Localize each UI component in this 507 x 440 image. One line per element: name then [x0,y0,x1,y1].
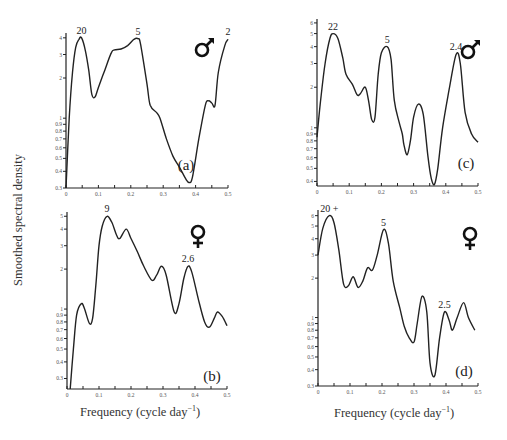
y-axis-label-text: Smoothed spectral density [11,154,26,286]
y-tick-label: 0.3 [307,383,314,389]
y-tick-label: 0.5 [306,165,313,171]
y-tick-label: 0.9 [307,321,314,327]
y-tick-label: 5 [311,223,314,229]
x-tick-label: 0.5 [224,392,231,398]
x-tick-label: 0.1 [95,191,102,197]
peak-period-label: 2.4 [450,41,463,52]
panel-b: 00.10.20.30.40.50.30.40.50.60.70.80.9123… [56,203,231,398]
y-tick-label: 0.4 [306,178,313,184]
y-tick-label: 0.8 [55,128,62,134]
peak-period-label: 22 [328,21,338,32]
panel-d: 00.10.20.30.40.50.30.40.50.60.70.80.9123… [307,203,482,395]
y-tick-label: 0.3 [55,185,62,191]
y-tick-label: 3 [310,60,313,66]
y-tick-label: 1 [60,306,63,312]
peak-period-label: 5 [385,34,390,45]
x-tick-label: 0.3 [160,191,167,197]
panel-c: 00.10.20.30.40.50.40.50.60.70.80.9123456… [306,19,482,195]
panel-label: (d) [455,363,473,380]
spectral-curve [70,216,227,389]
y-tick-label: 0.7 [55,136,62,142]
male-symbol-icon [462,40,480,58]
spectral-curve [318,215,475,376]
panel-a: 00.10.20.30.40.50.30.40.50.60.70.80.9123… [55,25,232,197]
y-tick-label: 0.3 [56,375,63,381]
x-tick-label: 0.3 [410,189,417,195]
y-tick-label: 0.8 [56,319,63,325]
x-tick-label: 0 [66,392,69,398]
x-tick-label: 0.4 [192,191,199,197]
peak-period-label: 5 [381,217,386,228]
peak-period-label: 2 [226,26,231,37]
y-tick-label: 0.7 [56,327,63,333]
peak-period-label: 2.5 [438,299,451,310]
y-tick-label: 0.4 [307,367,314,373]
female-symbol-icon [464,228,476,250]
y-tick-label: 3 [311,252,314,258]
peak-period-label: 20 [77,25,87,36]
y-tick-label: 0.9 [56,312,63,318]
y-tick-label: 0.8 [306,138,313,144]
peak-period-label: 2.6 [182,253,195,264]
x-tick-label: 0.1 [346,189,353,195]
y-tick-label: 4 [311,236,314,242]
y-tick-label: 4 [310,44,313,50]
y-tick-label: 3 [59,52,62,58]
y-tick-label: 6 [310,20,313,26]
y-tick-label: 5 [310,31,313,37]
y-tick-label: 0.5 [56,346,63,352]
y-tick-label: 5 [60,213,63,219]
female-symbol-icon [192,226,204,248]
y-tick-label: 6 [311,213,314,219]
peak-period-label: 20 + [320,203,339,214]
spectral-density-figure: 00.10.20.30.40.50.30.40.50.60.70.80.9123… [0,0,507,440]
y-tick-label: 1 [59,115,62,121]
y-tick-label: 0.6 [306,155,313,161]
y-tick-label: 2 [59,75,62,81]
spectral-curve [317,34,478,185]
y-tick-label: 1 [311,315,314,321]
x-tick-label: 0 [316,189,319,195]
y-tick-label: 0.6 [55,145,62,151]
y-tick-label: 0.7 [307,335,314,341]
x-tick-label: 0.2 [379,389,386,395]
y-tick-label: 0.6 [56,336,63,342]
y-tick-label: 0.5 [55,155,62,161]
y-tick-label: 2 [60,266,63,272]
y-tick-label: 2 [310,84,313,90]
y-axis-label: Smoothed spectral density [8,150,28,290]
y-tick-label: 0.4 [56,359,63,365]
y-tick-label: 0.5 [307,354,314,360]
y-tick-label: 1 [310,125,313,131]
panel-label: (b) [203,368,221,385]
male-symbol-icon [196,38,214,56]
y-tick-label: 2 [311,275,314,281]
x-tick-label: 0.2 [127,191,134,197]
peak-period-label: 9 [105,203,110,214]
y-tick-label: 4 [60,226,63,232]
y-tick-label: 3 [60,243,63,249]
x-tick-label: 0.2 [128,392,135,398]
x-tick-label: 0.3 [411,389,418,395]
panel-label: (c) [458,155,475,172]
peak-period-label: 5 [135,26,140,37]
x-axis-label-right: Frequency (cycle day−1) [334,405,454,421]
x-tick-label: 0.5 [475,389,482,395]
x-tick-label: 0.1 [347,389,354,395]
x-tick-label: 0.4 [443,389,450,395]
x-tick-label: 0.1 [96,392,103,398]
x-tick-label: 0.2 [378,189,385,195]
x-axis-label-left: Frequency (cycle day−1) [80,404,200,420]
y-tick-label: 4 [59,35,62,41]
plots-canvas: 00.10.20.30.40.50.30.40.50.60.70.80.9123… [0,0,507,440]
x-tick-label: 0.5 [225,191,232,197]
spectral-curve [66,37,228,188]
x-tick-label: 0.3 [160,392,167,398]
y-tick-label: 0.4 [55,168,62,174]
x-tick-label: 0 [65,191,68,197]
y-tick-label: 0.9 [306,131,313,137]
panel-label: (a) [178,157,195,174]
x-tick-label: 0 [317,389,320,395]
y-tick-label: 0.9 [55,121,62,127]
y-tick-label: 0.6 [307,344,314,350]
